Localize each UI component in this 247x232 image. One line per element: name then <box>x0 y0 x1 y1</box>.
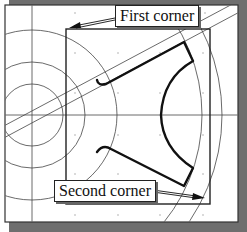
first-corner-callout: First corner <box>115 5 199 27</box>
second-corner-label: Second corner <box>59 182 151 199</box>
second-corner-callout: Second corner <box>54 180 156 202</box>
cad-diagram: First corner Second corner <box>0 0 247 232</box>
first-corner-label: First corner <box>120 7 194 24</box>
